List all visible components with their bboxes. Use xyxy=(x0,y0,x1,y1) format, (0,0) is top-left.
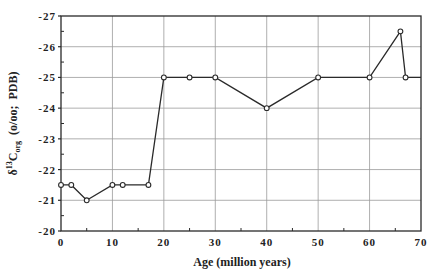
data-point-marker xyxy=(213,75,218,80)
data-point-marker xyxy=(367,75,372,80)
data-point-marker xyxy=(69,183,74,188)
y-tick-label: -24 xyxy=(38,102,56,114)
data-point-marker xyxy=(84,198,89,203)
minor-ticks xyxy=(58,16,395,231)
x-tick-label: 40 xyxy=(260,236,273,248)
y-tick-label: -21 xyxy=(38,194,56,206)
data-point-marker xyxy=(161,75,166,80)
x-axis-tick-labels: 010203040506070 xyxy=(58,236,428,248)
x-tick-label: 70 xyxy=(415,236,428,248)
series-line xyxy=(61,31,421,200)
y-axis-tick-labels: -20-21-22-23-24-25-26-27 xyxy=(38,10,56,237)
x-tick-label: 10 xyxy=(106,236,119,248)
x-tick-label: 20 xyxy=(157,236,170,248)
x-tick-label: 60 xyxy=(363,236,376,248)
x-axis-title: Age (million years) xyxy=(193,255,290,269)
data-point-marker xyxy=(110,183,115,188)
data-point-marker xyxy=(120,183,125,188)
data-point-marker xyxy=(316,75,321,80)
y-tick-label: -23 xyxy=(38,133,56,145)
y-tick-label: -25 xyxy=(38,71,56,83)
x-tick-label: 30 xyxy=(209,236,222,248)
y-tick-label: -26 xyxy=(38,41,56,53)
line-chart: 010203040506070 -20-21-22-23-24-25-26-27… xyxy=(0,0,436,275)
x-tick-label: 0 xyxy=(58,236,65,248)
y-tick-label: -22 xyxy=(38,164,56,176)
y-tick-label: -20 xyxy=(38,225,56,237)
data-point-marker xyxy=(146,183,151,188)
y-axis-title-units: (o/oo; PDB) xyxy=(6,72,20,141)
data-point-marker xyxy=(187,75,192,80)
data-point-marker xyxy=(398,29,403,34)
data-point-marker xyxy=(403,75,408,80)
data-series xyxy=(59,29,421,203)
y-axis-title-sub: org xyxy=(13,141,22,153)
y-tick-label: -27 xyxy=(38,10,56,22)
x-tick-label: 50 xyxy=(312,236,325,248)
y-axis-title-main: C xyxy=(6,152,20,161)
plot-frame xyxy=(61,16,421,231)
grid-lines xyxy=(61,16,421,231)
y-axis-title: δ13Corg (o/oo; PDB) xyxy=(5,72,22,176)
y-axis-title-sup: 13 xyxy=(5,161,14,169)
data-point-marker xyxy=(264,106,269,111)
data-point-marker xyxy=(59,183,64,188)
